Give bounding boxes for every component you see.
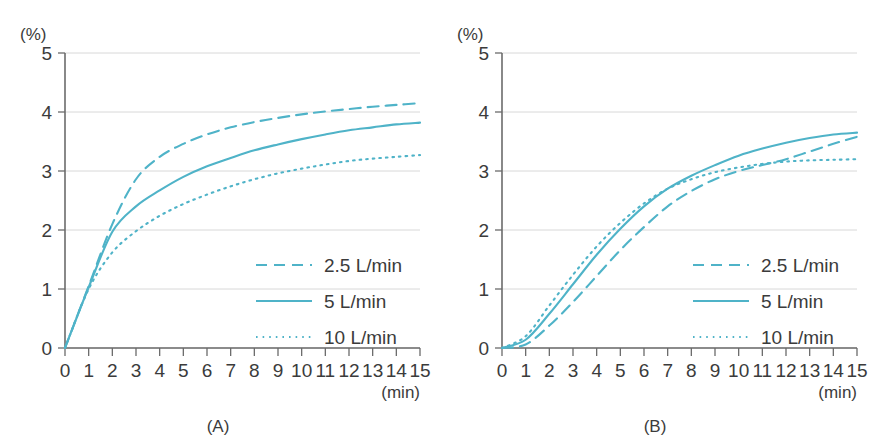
series-line xyxy=(65,155,420,348)
x-tick-label: 7 xyxy=(662,360,673,381)
series-line xyxy=(502,137,857,348)
x-tick-label: 3 xyxy=(131,360,142,381)
x-tick-label: 14 xyxy=(823,360,845,381)
y-tick-label: 5 xyxy=(41,43,52,64)
x-tick-label: 15 xyxy=(846,360,867,381)
x-tick-label: 13 xyxy=(799,360,820,381)
panel-b-x-unit: (min) xyxy=(818,383,857,402)
x-tick-label: 15 xyxy=(409,360,430,381)
x-tick-label: 14 xyxy=(386,360,408,381)
x-tick-label: 4 xyxy=(591,360,602,381)
panel-b-plot: 012345 0123456789101112131415 2.5 L/min5… xyxy=(437,0,874,447)
y-tick-label: 1 xyxy=(478,279,489,300)
legend-label: 5 L/min xyxy=(324,291,386,312)
x-tick-label: 1 xyxy=(520,360,531,381)
y-tick-label: 3 xyxy=(478,161,489,182)
x-tick-label: 9 xyxy=(273,360,284,381)
panel-b-yticklabels: 012345 xyxy=(478,43,489,359)
x-tick-label: 12 xyxy=(775,360,796,381)
x-tick-label: 0 xyxy=(60,360,71,381)
legend-label: 10 L/min xyxy=(761,327,834,348)
x-tick-label: 8 xyxy=(686,360,697,381)
x-tick-label: 11 xyxy=(752,360,772,381)
series-line xyxy=(502,133,857,348)
panel-b-legend: 2.5 L/min5 L/min10 L/min xyxy=(693,255,839,348)
x-tick-label: 12 xyxy=(338,360,359,381)
x-tick-label: 6 xyxy=(639,360,650,381)
x-tick-label: 10 xyxy=(291,360,312,381)
x-tick-label: 5 xyxy=(178,360,189,381)
panel-b: 012345 0123456789101112131415 2.5 L/min5… xyxy=(437,0,874,447)
y-tick-label: 5 xyxy=(478,43,489,64)
y-tick-label: 4 xyxy=(478,102,489,123)
x-tick-label: 7 xyxy=(225,360,236,381)
x-tick-label: 6 xyxy=(202,360,213,381)
panel-a-legend: 2.5 L/min5 L/min10 L/min xyxy=(256,255,402,348)
figure-two-panel-line-charts: 012345 0123456789101112131415 2.5 L/min5… xyxy=(0,0,875,447)
y-tick-label: 0 xyxy=(478,338,489,359)
y-tick-label: 2 xyxy=(41,220,52,241)
y-tick-label: 1 xyxy=(41,279,52,300)
y-tick-label: 3 xyxy=(41,161,52,182)
panel-a-x-unit: (min) xyxy=(381,383,420,402)
panel-b-caption: (B) xyxy=(644,417,667,436)
legend-label: 2.5 L/min xyxy=(761,255,839,276)
x-tick-label: 9 xyxy=(710,360,721,381)
legend-label: 10 L/min xyxy=(324,327,397,348)
x-tick-label: 10 xyxy=(728,360,749,381)
x-tick-label: 1 xyxy=(83,360,94,381)
panel-a-y-unit: (%) xyxy=(20,25,46,44)
panel-b-y-unit: (%) xyxy=(457,25,483,44)
y-tick-label: 4 xyxy=(41,102,52,123)
x-tick-label: 8 xyxy=(249,360,260,381)
y-tick-label: 0 xyxy=(41,338,52,359)
panel-a-caption: (A) xyxy=(207,417,230,436)
legend-label: 5 L/min xyxy=(761,291,823,312)
x-tick-label: 11 xyxy=(315,360,335,381)
series-line xyxy=(65,123,420,348)
x-tick-label: 4 xyxy=(154,360,165,381)
x-tick-label: 3 xyxy=(568,360,579,381)
legend-label: 2.5 L/min xyxy=(324,255,402,276)
panel-a: 012345 0123456789101112131415 2.5 L/min5… xyxy=(0,0,437,447)
x-tick-label: 2 xyxy=(544,360,555,381)
panel-b-series xyxy=(502,133,857,348)
x-tick-label: 13 xyxy=(362,360,383,381)
x-tick-label: 0 xyxy=(497,360,508,381)
panel-a-yticklabels: 012345 xyxy=(41,43,52,359)
panel-a-plot: 012345 0123456789101112131415 2.5 L/min5… xyxy=(0,0,437,447)
panel-a-xticklabels: 0123456789101112131415 xyxy=(60,360,431,381)
x-tick-label: 2 xyxy=(107,360,118,381)
x-tick-label: 5 xyxy=(615,360,626,381)
panel-b-xticklabels: 0123456789101112131415 xyxy=(497,360,868,381)
y-tick-label: 2 xyxy=(478,220,489,241)
